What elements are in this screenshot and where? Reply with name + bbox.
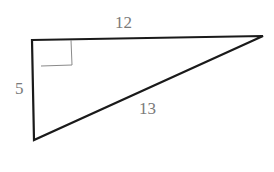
label-hypotenuse: 13 (139, 99, 156, 118)
right-angle-marker (41, 40, 72, 66)
right-triangle (32, 36, 263, 140)
label-top-side: 12 (115, 13, 132, 32)
label-left-side: 5 (15, 79, 24, 98)
triangle-diagram: 12 5 13 (0, 0, 274, 172)
